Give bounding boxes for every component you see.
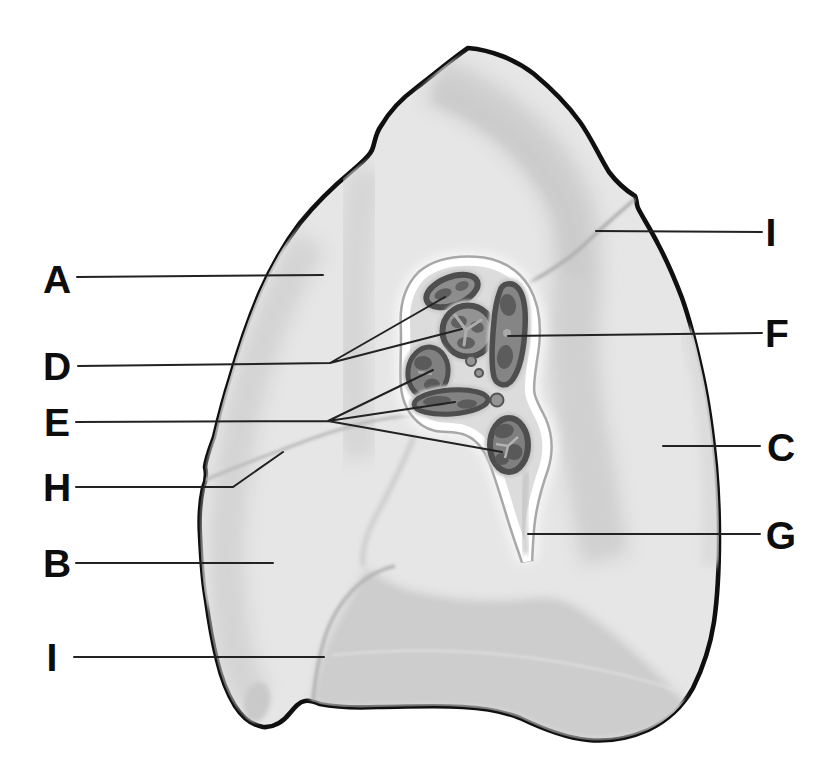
figure-canvas: A D E H B I I F C G	[0, 0, 834, 777]
pulmonary-ligament-shade	[524, 472, 527, 554]
label-D: D	[43, 345, 71, 388]
label-C: C	[767, 426, 795, 469]
leader-I-upper	[596, 231, 762, 232]
hilum-node-dot	[491, 394, 504, 407]
label-G: G	[766, 514, 796, 557]
label-I-lower: I	[47, 636, 58, 679]
label-A: A	[43, 258, 71, 301]
hilum-node-dot	[466, 356, 476, 366]
lung-diagram: A D E H B I I F C G	[0, 0, 834, 777]
label-H: H	[43, 466, 71, 509]
label-F: F	[765, 312, 789, 355]
vessel-ring	[443, 306, 494, 357]
label-E: E	[44, 401, 70, 444]
vessel-inferior-oval	[490, 418, 528, 472]
label-B: B	[43, 542, 71, 585]
vessel-right-tall	[492, 284, 525, 385]
vessel-central	[443, 306, 494, 357]
lung-body	[180, 30, 740, 750]
vessel-lumen	[414, 356, 432, 370]
hilum-node-dot	[475, 369, 483, 377]
label-I-upper: I	[766, 211, 777, 254]
